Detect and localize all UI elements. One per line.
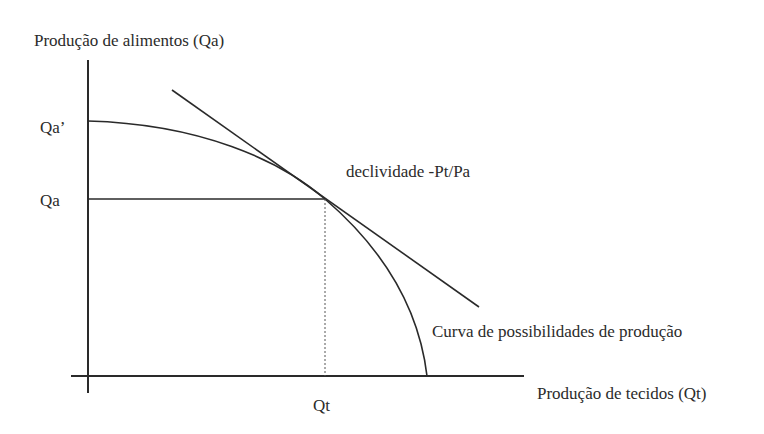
y-tick-qa-prime: Qa’ bbox=[40, 119, 65, 136]
y-axis-label: Produção de alimentos (Qa) bbox=[34, 32, 224, 49]
tangent-slope-label: declividade -Pt/Pa bbox=[346, 163, 470, 180]
x-tick-qt: Qt bbox=[313, 397, 330, 414]
ppf-diagram bbox=[0, 0, 764, 434]
production-possibility-curve bbox=[88, 121, 427, 376]
curve-label: Curva de possibilidades de produção bbox=[432, 323, 682, 340]
x-axis-label: Produção de tecidos (Qt) bbox=[537, 385, 706, 402]
y-tick-qa: Qa bbox=[40, 192, 60, 209]
